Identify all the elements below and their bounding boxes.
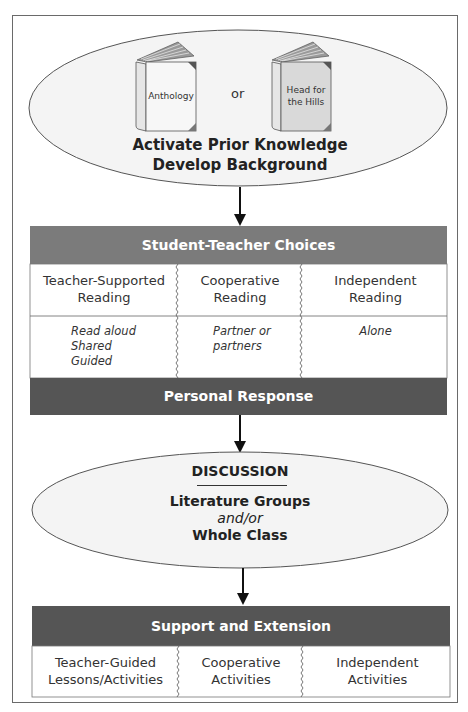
- develop-background-heading: Develop Background: [60, 155, 420, 175]
- book-title-head-for-the-hills: Head for the Hills: [282, 84, 330, 108]
- support-cell-line2: Activities: [305, 671, 450, 688]
- choices-header: Student-Teacher Choices: [30, 226, 447, 264]
- book-title-line1: Head for: [282, 84, 330, 96]
- personal-response-bar: Personal Response: [30, 378, 447, 415]
- and-or-label: and/or: [120, 510, 360, 527]
- detail-item: Read aloud: [71, 324, 136, 339]
- support-cell-cooperative: Cooperative Activities: [181, 654, 301, 688]
- or-label: or: [231, 86, 244, 101]
- discussion-underline: [197, 485, 287, 486]
- column-title-line1: Cooperative: [180, 272, 300, 289]
- detail-item: Alone: [304, 324, 447, 339]
- arrow-down-icon: [234, 415, 246, 453]
- support-cell-line1: Independent: [305, 654, 450, 671]
- support-cell-line2: Activities: [181, 671, 301, 688]
- column-title-independent: Independent Reading: [304, 272, 447, 306]
- column-title-line1: Independent: [304, 272, 447, 289]
- activate-prior-knowledge-heading: Activate Prior Knowledge: [60, 135, 420, 155]
- details-independent: Alone: [304, 324, 447, 339]
- book-title-anthology: Anthology: [147, 90, 195, 102]
- column-title-line2: Reading: [180, 289, 300, 306]
- support-cell-line1: Teacher-Guided: [34, 654, 177, 671]
- arrow-down-icon: [234, 187, 246, 226]
- support-extension-header: Support and Extension: [32, 606, 450, 646]
- discussion-body: Literature Groups and/or Whole Class: [120, 493, 360, 544]
- support-cell-line2: Lessons/Activities: [34, 671, 177, 688]
- column-title-teacher-supported: Teacher-Supported Reading: [32, 272, 176, 306]
- literature-groups-label: Literature Groups: [120, 493, 360, 510]
- details-cooperative: Partner or partners: [213, 324, 271, 354]
- column-title-line2: Reading: [304, 289, 447, 306]
- detail-item: partners: [213, 339, 271, 354]
- column-title-line1: Teacher-Supported: [32, 272, 176, 289]
- support-cell-independent: Independent Activities: [305, 654, 450, 688]
- discussion-title: DISCUSSION: [140, 463, 340, 479]
- column-title-line2: Reading: [32, 289, 176, 306]
- book-title-line2: the Hills: [282, 96, 330, 108]
- detail-item: Guided: [71, 354, 136, 369]
- details-teacher-supported: Read aloud Shared Guided: [71, 324, 136, 369]
- detail-item: Partner or: [213, 324, 271, 339]
- detail-item: Shared: [71, 339, 136, 354]
- support-cell-line1: Cooperative: [181, 654, 301, 671]
- support-cell-teacher-guided: Teacher-Guided Lessons/Activities: [34, 654, 177, 688]
- arrow-down-icon: [237, 568, 249, 605]
- column-title-cooperative: Cooperative Reading: [180, 272, 300, 306]
- whole-class-label: Whole Class: [120, 527, 360, 544]
